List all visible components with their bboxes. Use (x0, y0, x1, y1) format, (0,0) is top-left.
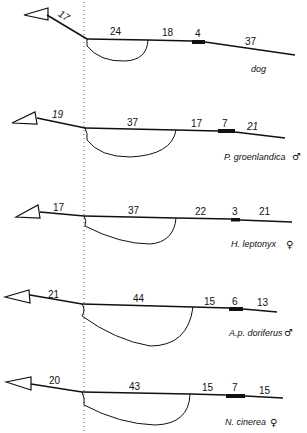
species-label: dog (251, 64, 266, 74)
black-bar (226, 394, 245, 398)
segment-label-middle: 18 (162, 27, 174, 38)
segment-label-loop: 43 (129, 381, 141, 392)
segment-label-middle: 15 (202, 382, 214, 393)
segment-label-loop: 37 (128, 205, 140, 216)
black-bar (231, 218, 240, 222)
arrow-head-icon (12, 112, 37, 124)
male-symbol-icon: ♂ (284, 327, 293, 338)
arrow-head-icon (6, 377, 31, 390)
tail-line (243, 309, 277, 312)
loop-curve (84, 216, 176, 244)
segment-label-middle: 17 (191, 118, 203, 129)
female-symbol-icon: ♀ (286, 239, 293, 250)
segment-label-bar: 4 (195, 28, 201, 39)
segment-label-bar: 6 (232, 296, 238, 307)
segment-label-tail: 13 (257, 297, 269, 308)
male-symbol-icon: ♂ (292, 151, 301, 162)
black-bar (229, 307, 243, 311)
black-bar (192, 40, 205, 44)
diagram-ap-doriferus: 21 44 15 6 13 A.p. doriferus ♂ (5, 289, 293, 346)
figure-canvas: 17 24 18 4 37 dog 19 37 17 7 21 P. groen… (0, 0, 307, 433)
segment-label-bar: 7 (232, 382, 238, 393)
segment-label-tail: 37 (245, 36, 257, 47)
segment-label-loop: 44 (133, 293, 145, 304)
loop-curve (85, 128, 176, 157)
arrow-head-icon (24, 8, 48, 20)
segment-label-tail: 21 (246, 121, 258, 132)
diagram-dog: 17 24 18 4 37 dog (24, 8, 295, 74)
segment-label-middle: 15 (204, 296, 216, 307)
segment-label-bar: 3 (232, 206, 238, 217)
segment-label-loop: 24 (110, 26, 122, 37)
black-bar (218, 129, 235, 133)
segment-label-middle: 22 (195, 206, 207, 217)
segment-label-arrow: 20 (49, 375, 61, 386)
loop-curve (87, 39, 148, 61)
species-label: N. cinerea (225, 417, 266, 427)
segment-label-arrow: 17 (56, 8, 72, 23)
species-label: P. groenlandica (224, 152, 285, 162)
segment-label-tail: 21 (259, 206, 271, 217)
loop-curve (82, 304, 193, 346)
diagram-h-leptonyx: 17 37 22 3 21 H. leptonyx ♀ (16, 202, 293, 250)
species-label: H. leptonyx (231, 239, 277, 249)
main-line (87, 39, 192, 41)
species-label: A.p. doriferus (228, 328, 283, 338)
segment-label-loop: 37 (127, 117, 139, 128)
segment-label-arrow: 21 (48, 289, 60, 300)
tail-line (245, 396, 283, 398)
segment-label-arrow: 19 (52, 109, 64, 120)
tail-line (240, 220, 292, 222)
segment-label-bar: 7 (222, 118, 228, 129)
diagram-n-cinerea: 20 43 15 7 15 N. cinerea ♀ (6, 375, 283, 428)
segment-label-arrow: 17 (53, 202, 65, 213)
diagram-p-groenlandica: 19 37 17 7 21 P. groenlandica ♂ (12, 109, 301, 162)
main-line (84, 216, 231, 219)
segment-label-tail: 15 (259, 385, 271, 396)
tail-line (235, 132, 285, 138)
female-symbol-icon: ♀ (270, 417, 277, 428)
loop-curve (82, 392, 190, 425)
arrow-head-icon (5, 290, 30, 303)
arrow-head-icon (16, 205, 40, 218)
